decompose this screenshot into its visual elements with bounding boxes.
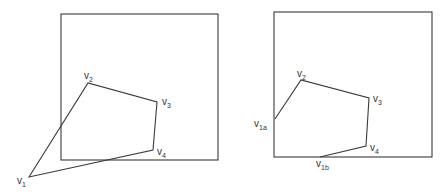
vertex-label-v1a: v1a [254,118,267,131]
clipped-polygon [275,80,369,157]
vertex-label-v4: v4 [370,142,379,155]
vertex-labels: v1v2v3v4 [17,70,171,188]
vertex-label-v3: v3 [162,96,171,109]
vertex-labels: v1av2v3v4v1b [254,68,382,171]
vertex-label-v4: v4 [157,146,166,159]
vertex-label-v1b: v1b [316,158,329,171]
clipping-diagram: v1v2v3v4 v1av2v3v4v1b [0,0,446,195]
vertex-label-v1: v1 [17,175,26,188]
panel-before-clipping: v1v2v3v4 [17,14,218,188]
vertex-label-v2: v2 [297,68,306,81]
vertex-label-v3: v3 [373,93,382,106]
panel-after-clipping: v1av2v3v4v1b [254,12,432,171]
clip-window [61,14,218,160]
polygon [29,83,157,177]
vertex-label-v2: v2 [84,70,93,83]
